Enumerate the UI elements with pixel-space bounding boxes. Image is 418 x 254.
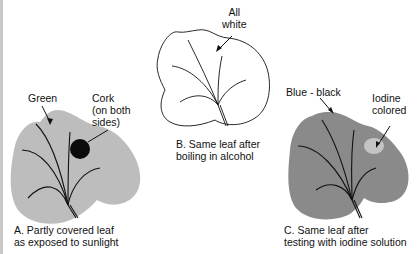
caption-b-line1: B. Same leaf after [176,138,260,150]
label-iodine-line2: colored [372,104,406,116]
leaf-c-blade [288,112,408,219]
caption-a-line2: as exposed to sunlight [14,236,119,248]
caption-c-line2: testing with iodine solution [284,236,407,248]
caption-c: C. Same leaf after testing with iodine s… [284,224,407,248]
caption-a: A. Partly covered leaf as exposed to sun… [14,224,119,248]
label-all-white-line2: white [222,18,247,30]
cork [70,139,90,159]
label-iodine-colored: Iodine colored [372,92,406,116]
caption-a-line1: A. Partly covered leaf [14,224,119,236]
label-all-white: All white [222,6,247,30]
label-cork-line2: (on both [92,104,131,116]
leaf-diagram [0,0,418,254]
leaf-b [157,30,269,126]
leaf-b-blade [157,30,269,126]
label-cork-line1: Cork [92,92,131,104]
caption-b: B. Same leaf after boiling in alcohol [176,138,260,162]
label-green: Green [28,92,57,104]
label-all-white-line1: All [222,6,247,18]
leaf-c [288,98,408,219]
caption-c-line1: C. Same leaf after [284,224,407,236]
label-cork: Cork (on both sides) [92,92,131,128]
label-blue-black: Blue - black [286,86,341,98]
label-cork-line3: sides) [92,116,131,128]
label-iodine-line1: Iodine [372,92,406,104]
caption-b-line2: boiling in alcohol [176,150,260,162]
